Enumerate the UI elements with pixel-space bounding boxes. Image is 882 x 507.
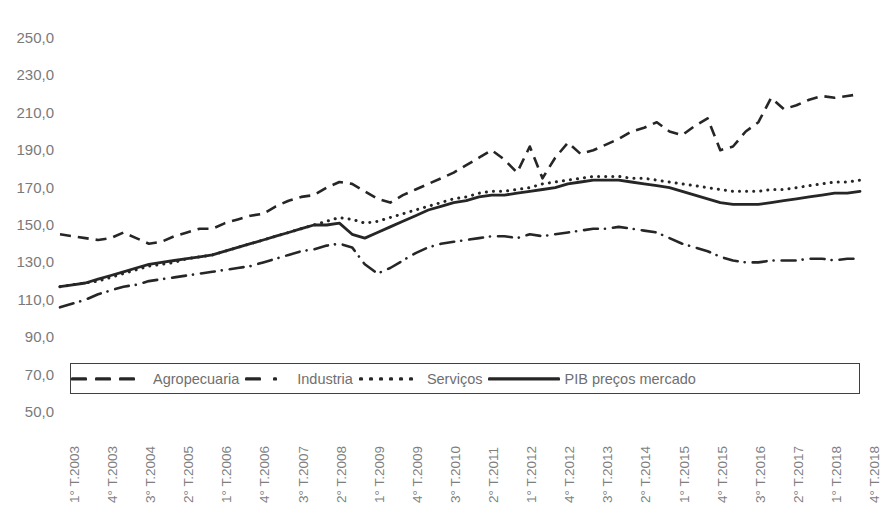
y-axis-tick-label: 150,0 [2,217,54,232]
x-axis-tick-label: 1° T.2006 [219,446,234,503]
series-line-agropecuaria [60,94,860,244]
legend-item-pib[interactable]: PIB preços mercado [488,364,701,393]
x-axis-tick-label: 1° T.2015 [677,446,692,503]
dash-dot-line-swatch-icon [245,372,293,386]
x-axis-tick-label: 4° T.2009 [410,446,425,503]
solid-line-swatch-icon [488,372,560,386]
series-line-servi-os [60,176,860,286]
x-axis-tick-label: 2° T.2008 [334,446,349,503]
y-axis-tick-label: 130,0 [2,254,54,269]
y-axis-tick-label: 250,0 [2,30,54,45]
legend-item-industria[interactable]: Industria [245,364,359,393]
y-axis-tick-label: 70,0 [2,367,54,382]
x-axis-tick-label: 4° T.2003 [105,446,120,503]
x-axis-tick-label: 2° T.2011 [486,447,501,503]
x-axis-tick-label: 3° T.2004 [143,446,158,503]
x-axis-tick-label: 1° T.2012 [524,446,539,503]
x-axis-tick-label: 4° T.2015 [715,446,730,503]
legend-item-servicos[interactable]: Serviços [359,364,489,393]
x-axis-tick-label: 4° T.2006 [257,446,272,503]
series-line-pib-pre-os-mercado [60,180,860,287]
legend-label-servicos: Serviços [423,371,489,387]
x-axis-tick-label: 3° T.2010 [448,446,463,503]
x-axis-tick-label: 2° T.2017 [791,446,806,503]
x-axis-tick-label: 1° T.2003 [67,446,82,503]
y-axis-tick-label: 50,0 [2,404,54,419]
y-axis-tick-label: 170,0 [2,180,54,195]
x-axis-tick-label: 3° T.2007 [296,446,311,503]
y-axis: 250,0230,0210,0190,0170,0150,0130,0110,0… [0,0,54,507]
y-axis-tick-label: 90,0 [2,329,54,344]
x-axis: 1° T.20034° T.20033° T.20042° T.20051° T… [57,425,867,507]
dotted-line-swatch-icon [359,372,423,386]
dashed-line-swatch-icon [71,372,149,386]
x-axis-tick-label: 3° T.2016 [753,446,768,503]
y-axis-tick-label: 210,0 [2,105,54,120]
chart-legend: Agropecuaria Industria Serviços PIB preç… [70,363,860,394]
x-axis-tick-label: 2° T.2014 [638,446,653,503]
x-axis-tick-label: 4° T.2012 [562,446,577,503]
x-axis-tick-label: 1° T.2009 [372,446,387,503]
x-axis-tick-label: 4° T.2018 [867,446,882,503]
x-axis-tick-label: 3° T.2013 [600,446,615,503]
series-line-industria [60,227,860,307]
y-axis-tick-label: 230,0 [2,67,54,82]
x-axis-tick-label: 2° T.2005 [181,446,196,503]
y-axis-tick-label: 110,0 [2,292,54,307]
legend-label-agropecuaria: Agropecuaria [149,371,245,387]
y-axis-tick-label: 190,0 [2,142,54,157]
legend-label-pib: PIB preços mercado [560,371,701,387]
legend-item-agropecuaria[interactable]: Agropecuaria [71,364,245,393]
x-axis-tick-label: 1° T.2018 [829,446,844,503]
legend-label-industria: Industria [293,371,359,387]
